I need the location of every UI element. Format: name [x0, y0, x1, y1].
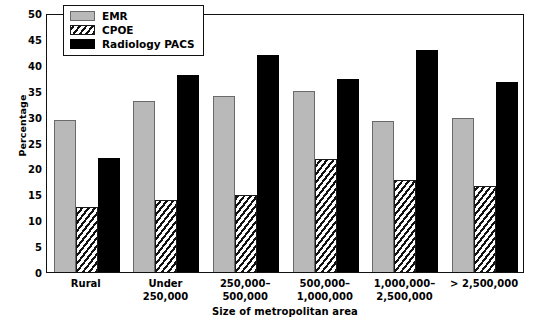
y-tick-label: 20	[18, 164, 42, 175]
gray-swatch	[70, 11, 95, 21]
bar-group	[445, 15, 525, 272]
y-tick-label: 15	[18, 190, 42, 201]
legend-label: Radiology PACS	[102, 38, 195, 50]
bar-group	[366, 15, 446, 272]
y-tick-label: 50	[18, 9, 42, 20]
y-axis-ticks: 05101520253035404550	[18, 0, 42, 323]
bar-pacs	[257, 55, 279, 272]
bar-cpoe	[474, 186, 496, 272]
x-tick-label: > 2,500,000	[444, 278, 524, 291]
hatch-swatch	[70, 25, 95, 35]
legend-label: CPOE	[102, 24, 134, 36]
bar-pacs	[496, 82, 518, 272]
bar-emr	[372, 121, 394, 272]
bar-emr	[293, 91, 315, 272]
y-tick-label: 25	[18, 138, 42, 149]
y-tick-label: 40	[18, 60, 42, 71]
bar-cpoe	[394, 180, 416, 272]
x-tick-label: Rural	[46, 278, 126, 291]
bar-cpoe	[155, 200, 177, 272]
y-tick-label: 0	[18, 268, 42, 279]
bar-cpoe	[235, 195, 257, 272]
legend-item: Radiology PACS	[70, 37, 195, 51]
bar-chart: Percentage 05101520253035404550 RuralUnd…	[0, 0, 536, 323]
x-tick-label: 1,000,000– 2,500,000	[365, 278, 445, 303]
x-tick-label: 500,000– 1,000,000	[285, 278, 365, 303]
bar-cpoe	[315, 159, 337, 272]
bar-group	[286, 15, 366, 272]
x-tick-label: 250,000– 500,000	[205, 278, 285, 303]
bar-pacs	[337, 79, 359, 272]
y-tick-label: 5	[18, 242, 42, 253]
bar-cpoe	[76, 207, 98, 272]
x-axis-title: Size of metropolitan area	[46, 306, 524, 317]
y-tick-label: 10	[18, 216, 42, 227]
y-tick-label: 35	[18, 86, 42, 97]
legend-item: CPOE	[70, 23, 195, 37]
legend-item: EMR	[70, 9, 195, 23]
bar-emr	[54, 120, 76, 272]
bar-pacs	[98, 158, 120, 272]
bar-emr	[452, 118, 474, 272]
black-swatch	[70, 39, 95, 49]
bar-emr	[213, 96, 235, 272]
bar-pacs	[416, 50, 438, 272]
y-tick-label: 45	[18, 34, 42, 45]
bar-group	[206, 15, 286, 272]
bar-pacs	[177, 75, 199, 272]
x-tick-label: Under 250,000	[126, 278, 206, 303]
legend-label: EMR	[102, 10, 128, 22]
bar-emr	[133, 101, 155, 272]
y-tick-label: 30	[18, 112, 42, 123]
chart-legend: EMRCPOERadiology PACS	[63, 5, 204, 56]
